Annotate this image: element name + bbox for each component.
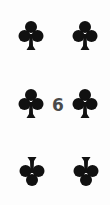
rank-label: 6 xyxy=(52,95,64,115)
club-icon xyxy=(18,20,44,52)
club-icon xyxy=(18,88,44,120)
club-icon-inverted xyxy=(19,155,45,187)
club-icon xyxy=(72,88,98,120)
club-icon xyxy=(72,20,98,52)
playing-card[interactable]: 6 xyxy=(0,0,110,205)
club-icon-inverted xyxy=(73,155,99,187)
